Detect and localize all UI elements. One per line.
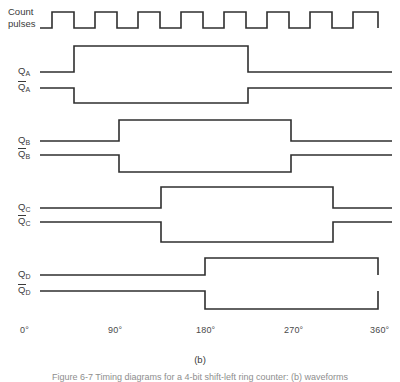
- waveform-qb-bar: [40, 155, 392, 172]
- waveform-qa: [40, 46, 392, 72]
- waveform-qc: [40, 187, 392, 208]
- signal-label-qd-bar: QD: [18, 285, 31, 298]
- waveform-qd: [40, 258, 378, 275]
- axis-tick-0: 0°: [20, 325, 29, 335]
- axis-tick-270: 270°: [284, 325, 303, 335]
- axis-tick-90: 90°: [108, 325, 122, 335]
- signal-label-qb: QB: [18, 135, 30, 148]
- signal-label-qd: QD: [18, 269, 31, 282]
- signal-label-qc: QC: [18, 202, 31, 215]
- waveform-qb: [40, 120, 392, 141]
- signal-label-qc-bar: QC: [18, 216, 31, 229]
- waveform-qd-bar: [40, 291, 378, 309]
- count-pulses-line1: Count: [8, 6, 33, 17]
- waveform-qc-bar: [40, 222, 392, 242]
- axis-tick-180: 180°: [196, 325, 215, 335]
- count-pulses-label: Count pulses: [8, 6, 35, 29]
- waveform-qa-bar: [40, 88, 392, 103]
- waveform-count-pulses: [40, 12, 378, 28]
- panel-caption: (b): [0, 354, 400, 365]
- signal-label-qa: QA: [18, 66, 30, 79]
- signal-label-qa-bar: QA: [18, 82, 30, 95]
- axis-tick-360: 360°: [370, 325, 389, 335]
- signal-label-qb-bar: QB: [18, 149, 30, 162]
- figure-caption: Figure 6-7 Timing diagrams for a 4-bit s…: [0, 372, 400, 382]
- count-pulses-line2: pulses: [8, 18, 35, 29]
